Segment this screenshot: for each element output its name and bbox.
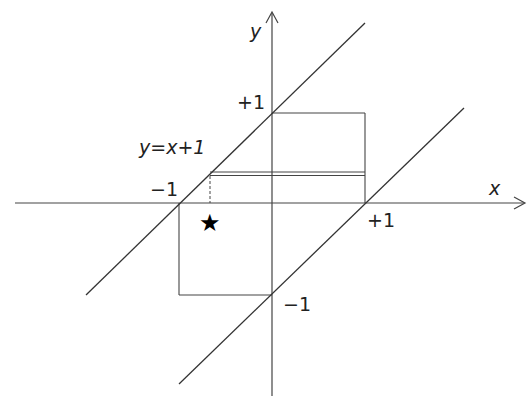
line-label-y-eq-x-plus-1: y=x+1 [138,136,205,158]
x-tick-pos-label: +1 [367,209,395,231]
x-tick-neg-label: −1 [150,178,178,200]
line-y-eq-x-minus-1 [179,108,464,384]
y-tick-neg-label: −1 [283,293,311,315]
y-axis [266,12,278,396]
line-y-eq-x-plus-1 [86,23,365,295]
star-icon: ★ [199,209,221,237]
diagram-canvas: y x +1 −1 +1 −1 y=x+1 ★ [0,0,531,401]
y-axis-label: y [249,20,262,42]
x-axis [15,197,525,209]
double-line [210,172,365,176]
y-tick-pos-label: +1 [237,91,265,113]
x-axis-label: x [488,177,501,199]
